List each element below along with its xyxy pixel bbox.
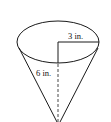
cone-svg: 3 in. 6 in. [0, 0, 111, 122]
radius-label: 3 in. [68, 31, 83, 41]
cone-side-left [19, 48, 57, 122]
cone-diagram: 3 in. 6 in. [0, 0, 111, 122]
cone-side-right [60, 48, 98, 122]
height-label: 6 in. [36, 68, 51, 78]
